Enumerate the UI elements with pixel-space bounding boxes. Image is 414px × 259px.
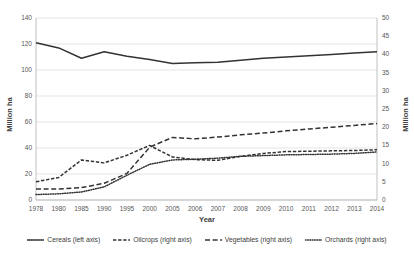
legend-line-icon [27, 237, 44, 243]
legend-label: Orchards (right axis) [325, 236, 387, 243]
y-axis-left-tick-label: 40 [10, 144, 32, 151]
series-line [36, 43, 377, 64]
legend-label: Cereals (left axis) [47, 236, 100, 243]
chart-container: Million ha Million ha Year 0204060801001… [0, 0, 414, 259]
legend-item[interactable]: Cereals (left axis) [27, 236, 100, 243]
y-axis-right-tick-label: 20 [382, 123, 406, 130]
legend-item[interactable]: Vegetables (right axis) [205, 236, 292, 243]
x-axis-tick-label: 2014 [363, 205, 391, 212]
legend-line-icon [305, 237, 322, 243]
legend-label: Vegetables (right axis) [225, 236, 292, 243]
series-line [36, 145, 377, 181]
legend-label: Oilcrops (right axis) [133, 236, 192, 243]
y-axis-right-tick-label: 50 [382, 14, 406, 21]
chart-legend: Cereals (left axis)Oilcrops (right axis)… [0, 236, 414, 243]
y-axis-right-tick-label: 30 [382, 87, 406, 94]
y-axis-left-tick-label: 20 [10, 170, 32, 177]
legend-item[interactable]: Orchards (right axis) [305, 236, 387, 243]
y-axis-right-tick-label: 0 [382, 196, 406, 203]
series-line [36, 124, 377, 190]
y-axis-left-tick-label: 0 [10, 196, 32, 203]
y-axis-left-tick-label: 100 [10, 66, 32, 73]
y-axis-right-tick-label: 15 [382, 141, 406, 148]
y-axis-right-title: Million ha [401, 87, 410, 143]
y-axis-right-tick-label: 5 [382, 178, 406, 185]
y-axis-left-tick-label: 60 [10, 118, 32, 125]
y-axis-right-tick-label: 10 [382, 160, 406, 167]
y-axis-left-tick-label: 80 [10, 92, 32, 99]
legend-line-icon [205, 237, 222, 243]
x-axis-title: Year [0, 215, 414, 224]
legend-item[interactable]: Oilcrops (right axis) [113, 236, 192, 243]
y-axis-right-tick-label: 35 [382, 69, 406, 76]
y-axis-right-tick-label: 40 [382, 50, 406, 57]
legend-line-icon [113, 237, 130, 243]
y-axis-left-tick-label: 120 [10, 40, 32, 47]
y-axis-right-tick-label: 45 [382, 32, 406, 39]
y-axis-left-tick-label: 140 [10, 14, 32, 21]
series-line [36, 152, 377, 195]
y-axis-right-tick-label: 25 [382, 105, 406, 112]
